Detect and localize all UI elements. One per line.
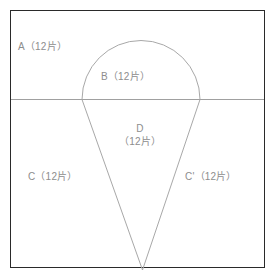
region-label-c-prime: C'（12片） (185, 170, 237, 183)
diagram-canvas: — — —— A（12片） B（12片） D （12片） C（12片） C'（1… (0, 0, 278, 275)
region-label-d-line2: （12片） (106, 135, 174, 148)
region-label-d: D （12片） (106, 122, 174, 148)
region-label-d-line1: D (106, 122, 174, 135)
region-label-a: A（12片） (18, 40, 67, 53)
region-label-b: B（12片） (101, 70, 150, 83)
region-label-c: C（12片） (28, 170, 78, 183)
